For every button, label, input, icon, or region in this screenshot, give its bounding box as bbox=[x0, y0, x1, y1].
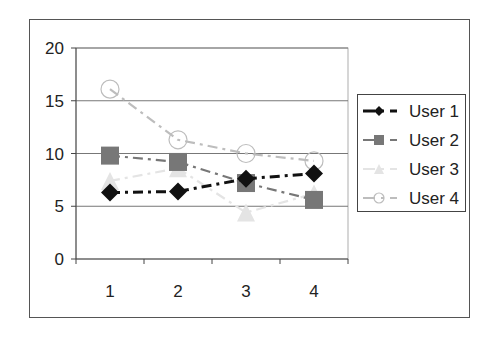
x-tick-label: 3 bbox=[241, 282, 250, 301]
legend-label: User 4 bbox=[409, 189, 459, 208]
y-tick-label: 0 bbox=[55, 250, 64, 269]
y-tick-label: 10 bbox=[45, 145, 64, 164]
legend: User 1User 2User 3User 4 bbox=[358, 95, 466, 212]
x-tick-label: 1 bbox=[105, 282, 114, 301]
square-marker-icon bbox=[169, 153, 187, 171]
legend-label: User 2 bbox=[409, 131, 459, 150]
line-chart: 05101520 1234 User 1User 2User 3User 4 bbox=[0, 0, 494, 339]
legend-label: User 3 bbox=[409, 160, 459, 179]
square-marker-icon bbox=[374, 135, 384, 145]
legend-label: User 1 bbox=[409, 102, 459, 121]
chart: 05101520 1234 User 1User 2User 3User 4 bbox=[0, 0, 494, 339]
y-tick-label: 15 bbox=[45, 92, 64, 111]
x-tick-label: 4 bbox=[309, 282, 318, 301]
y-tick-label: 5 bbox=[55, 197, 64, 216]
y-tick-label: 20 bbox=[45, 39, 64, 58]
square-marker-icon bbox=[101, 147, 119, 165]
square-marker-icon bbox=[305, 191, 323, 209]
x-tick-label: 2 bbox=[173, 282, 182, 301]
